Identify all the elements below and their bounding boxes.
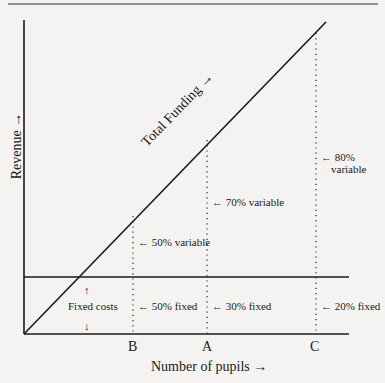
fixed-costs-label: Fixed costs [68, 300, 118, 312]
tick-b: B [128, 339, 137, 355]
c-variable-label-2: variable [331, 163, 366, 175]
c-variable-label-1: ← 80% [321, 151, 355, 163]
b-fixed-label: ← 50% fixed [138, 300, 197, 312]
y-axis-label: Revenue → [9, 111, 25, 181]
diagram-canvas [0, 0, 385, 383]
tick-a: A [202, 339, 212, 355]
fixed-up-arrow: ↑ [84, 284, 90, 296]
total-funding-line [24, 22, 326, 334]
tick-c: C [310, 339, 319, 355]
a-fixed-label: ← 30% fixed [212, 300, 271, 312]
b-variable-label: ← 50% variable [138, 236, 210, 248]
c-fixed-label: ← 20% fixed [321, 300, 380, 312]
x-axis-label: Number of pupils → [151, 359, 267, 375]
a-variable-label: ← 70% variable [212, 196, 284, 208]
fixed-down-arrow: ↓ [84, 320, 90, 332]
